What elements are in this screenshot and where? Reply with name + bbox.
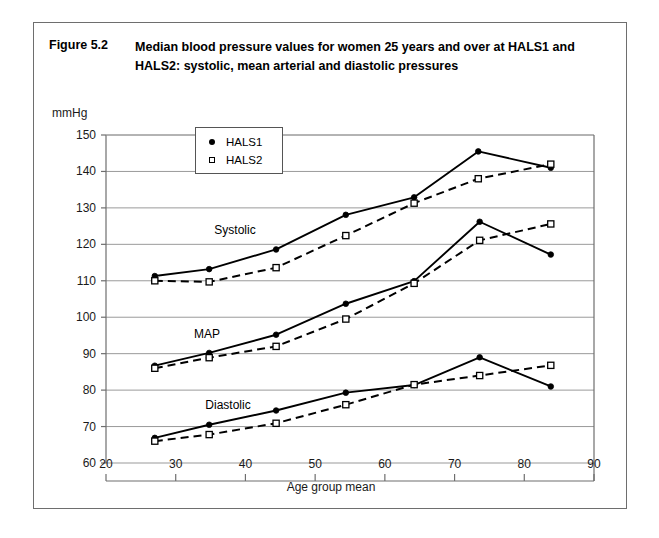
open-square-icon — [205, 157, 219, 163]
y-tick-label: 140 — [62, 164, 96, 178]
legend-label-hals1: HALS1 — [226, 136, 262, 148]
chart-svg — [34, 23, 628, 510]
series-annotation-map: MAP — [194, 327, 220, 341]
y-tick-label: 150 — [62, 128, 96, 142]
y-tick-label: 100 — [62, 310, 96, 324]
y-tick-label: 80 — [62, 383, 96, 397]
filled-circle-icon — [205, 139, 219, 145]
x-tick-label: 50 — [308, 457, 321, 471]
x-tick-label: 80 — [518, 457, 531, 471]
x-tick-label: 70 — [448, 457, 461, 471]
y-tick-label: 120 — [62, 237, 96, 251]
x-tick-label: 60 — [378, 457, 391, 471]
legend-item-hals1: HALS1 — [205, 133, 282, 151]
x-tick-label: 30 — [169, 457, 182, 471]
x-tick-label: 20 — [99, 457, 112, 471]
y-tick-label: 60 — [62, 456, 96, 470]
y-tick-label: 130 — [62, 201, 96, 215]
x-axis-title: Age group mean — [34, 480, 628, 494]
y-tick-label: 70 — [62, 420, 96, 434]
x-tick-label: 90 — [587, 457, 600, 471]
chart-legend: HALS1 HALS2 — [195, 127, 283, 174]
legend-label-hals2: HALS2 — [226, 154, 262, 166]
y-tick-label: 110 — [62, 274, 96, 288]
series-annotation-systolic: Systolic — [214, 223, 255, 237]
figure-frame: Figure 5.2 Median blood pressure values … — [33, 22, 627, 509]
x-tick-label: 40 — [239, 457, 252, 471]
legend-item-hals2: HALS2 — [205, 151, 282, 169]
chart-plot-area: mmHg 60708090100110120130140150203040506… — [34, 23, 628, 510]
series-annotation-diastolic: Diastolic — [205, 398, 250, 412]
y-tick-label: 90 — [62, 347, 96, 361]
